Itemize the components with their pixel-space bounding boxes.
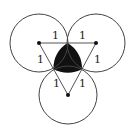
center-point-left	[37, 41, 41, 45]
diagram-canvas: 1 1 1 1 1 1	[0, 0, 132, 128]
center-point-right	[94, 41, 98, 45]
radius-label: 1	[79, 29, 86, 42]
radius-label: 1	[79, 77, 86, 90]
tangent-circles-figure: 1 1 1 1 1 1	[0, 0, 132, 128]
radius-label: 1	[53, 77, 60, 90]
center-point-bottom	[66, 93, 70, 97]
radius-label: 1	[37, 53, 44, 66]
radius-label: 1	[94, 53, 101, 66]
radius-label: 1	[52, 29, 59, 42]
